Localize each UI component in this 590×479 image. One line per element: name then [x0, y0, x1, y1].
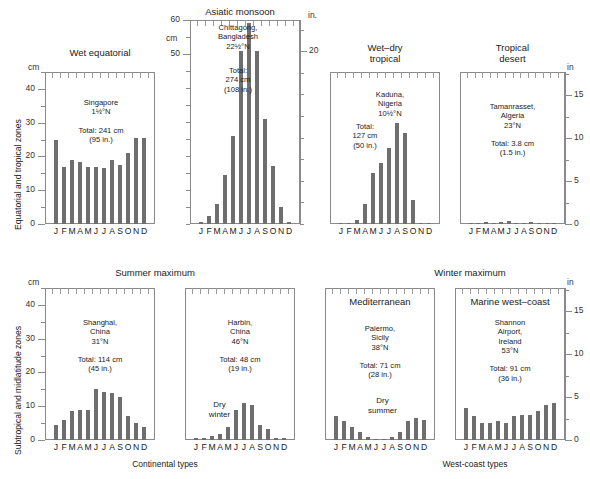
bar [545, 223, 549, 224]
bar [355, 220, 359, 224]
bar [134, 138, 138, 224]
top-tick [52, 288, 53, 294]
top-tick [494, 288, 495, 294]
bar [339, 223, 343, 224]
y-tick-label: 40 [15, 299, 35, 309]
bar [512, 416, 516, 440]
bar [110, 393, 114, 440]
top-tick [140, 288, 141, 294]
top-tick [232, 288, 233, 294]
bar [492, 223, 496, 224]
month-label: D [549, 442, 559, 452]
bar [464, 408, 468, 440]
bar [215, 204, 219, 224]
y-tick-major [38, 406, 45, 407]
y-tick-minor [300, 224, 304, 225]
y-tick-label: 0 [15, 434, 35, 444]
top-tick [526, 288, 527, 294]
top-tick [332, 288, 333, 294]
top-tick [490, 72, 491, 78]
caption-continental-types: Continental types [85, 459, 245, 469]
month-label: D [419, 442, 429, 452]
bar [504, 423, 508, 440]
y-tick-major [38, 89, 45, 90]
y-tick-major [565, 440, 572, 441]
bar [223, 175, 227, 224]
top-tick [240, 288, 241, 294]
top-tick [518, 288, 519, 294]
annotation-dry-winter: Dry winter [192, 400, 247, 419]
y-tick-label: 15 [574, 305, 590, 315]
top-tick [52, 72, 53, 78]
top-tick [550, 288, 551, 294]
bar [271, 166, 275, 224]
y-tick-label: 0 [15, 218, 35, 228]
bar [552, 223, 556, 224]
top-tick [108, 72, 109, 78]
y-axis-spine [565, 288, 566, 440]
top-tick [372, 288, 373, 294]
bar [528, 415, 532, 440]
top-tick [535, 72, 536, 78]
bar [403, 133, 407, 224]
total-note-kaduna: Total: 127 cm (50 in.) [332, 122, 398, 150]
bar [358, 432, 362, 440]
top-tick [100, 288, 101, 294]
bar [366, 437, 370, 440]
top-tick [148, 72, 149, 78]
y-axis-spine [190, 20, 191, 224]
top-tick [60, 72, 61, 78]
top-tick [425, 72, 426, 78]
bar [78, 410, 82, 440]
top-tick [76, 288, 77, 294]
row1-unit-in: in [567, 62, 574, 72]
top-tick [393, 72, 394, 78]
y-tick-major [38, 339, 45, 340]
bar [274, 438, 278, 440]
bar [342, 421, 346, 440]
y-tick-major [183, 54, 190, 55]
chart-title-tropical-desert: Tropical desert [460, 42, 565, 64]
bar [514, 223, 518, 224]
bar [110, 160, 114, 224]
y-tick-major [38, 440, 45, 441]
bar [390, 437, 394, 440]
station-note-singapore: Singapore 1½°N Total: 241 cm (95 in.) [48, 98, 154, 144]
bar [207, 216, 211, 225]
bar [86, 410, 90, 440]
bar [86, 167, 90, 224]
bar [194, 438, 198, 440]
top-tick [340, 288, 341, 294]
bar [496, 421, 500, 440]
bar [472, 416, 476, 440]
bar [118, 397, 122, 440]
top-tick [116, 288, 117, 294]
bar [250, 405, 254, 440]
bar [102, 168, 106, 224]
bar [142, 138, 146, 224]
y-tick-major [38, 305, 45, 306]
monsoon-unit-in: in. [308, 10, 317, 20]
y-tick-major [565, 224, 572, 225]
top-tick [116, 72, 117, 78]
bar [411, 200, 415, 224]
top-tick [124, 72, 125, 78]
y-axis-spine [300, 20, 301, 224]
bar [374, 439, 378, 440]
top-tick [256, 288, 257, 294]
top-tick [388, 288, 389, 294]
chart-title-wet-equatorial: Wet equatorial [45, 47, 155, 58]
bar [287, 222, 291, 224]
bar [387, 148, 391, 224]
top-tick [192, 288, 193, 294]
monsoon-unit-cm: cm [166, 33, 177, 43]
top-tick [108, 288, 109, 294]
top-tick [345, 72, 346, 78]
bar [202, 438, 206, 440]
top-tick [288, 288, 289, 294]
top-tick [348, 288, 349, 294]
bar [371, 173, 375, 224]
bar [226, 427, 230, 441]
bar [544, 405, 548, 440]
y-tick-label: 20 [309, 45, 329, 55]
